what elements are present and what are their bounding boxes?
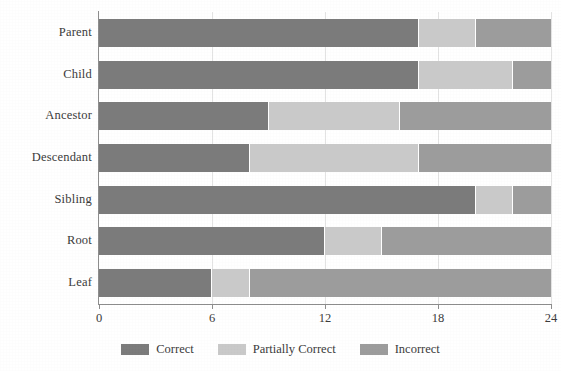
legend-label: Partially Correct <box>253 342 336 357</box>
bar-segment <box>250 144 420 172</box>
bar-root <box>99 227 551 255</box>
x-axis-tick <box>212 305 213 309</box>
y-axis-label-descendant: Descendant <box>0 150 92 165</box>
x-axis-tick-label: 24 <box>531 311 561 326</box>
chart-legend: CorrectPartially CorrectIncorrect <box>0 342 561 357</box>
bar-segment <box>99 61 419 89</box>
y-axis-label-root: Root <box>0 233 92 248</box>
legend-swatch-icon <box>360 344 388 355</box>
bar-ancestor <box>99 102 551 130</box>
bar-segment <box>99 227 325 255</box>
legend-item[interactable]: Incorrect <box>360 342 440 357</box>
y-axis-label-sibling: Sibling <box>0 192 92 207</box>
bar-segment <box>325 227 382 255</box>
bar-segment <box>419 19 476 47</box>
x-axis-tick <box>325 305 326 309</box>
bar-segment <box>513 61 551 89</box>
legend-label: Incorrect <box>395 342 440 357</box>
bar-parent <box>99 19 551 47</box>
bar-segment <box>250 269 551 297</box>
x-axis-tick <box>99 305 100 309</box>
bar-segment <box>513 186 551 214</box>
bar-segment <box>99 19 419 47</box>
gridline <box>551 12 552 304</box>
bar-leaf <box>99 269 551 297</box>
x-axis-tick-label: 18 <box>418 311 458 326</box>
x-axis-tick <box>551 305 552 309</box>
legend-label: Correct <box>156 342 193 357</box>
bar-segment <box>400 102 551 130</box>
bar-segment <box>99 102 269 130</box>
bar-segment <box>99 144 250 172</box>
y-axis-label-ancestor: Ancestor <box>0 108 92 123</box>
bar-child <box>99 61 551 89</box>
x-axis-tick-label: 0 <box>79 311 119 326</box>
legend-swatch-icon <box>218 344 246 355</box>
bar-sibling <box>99 186 551 214</box>
x-axis-tick <box>438 305 439 309</box>
bar-segment <box>419 144 551 172</box>
bar-segment <box>99 186 476 214</box>
legend-item[interactable]: Correct <box>121 342 193 357</box>
y-axis-label-leaf: Leaf <box>0 275 92 290</box>
legend-item[interactable]: Partially Correct <box>218 342 336 357</box>
bar-segment <box>476 186 514 214</box>
x-axis-tick-label: 12 <box>305 311 345 326</box>
bar-segment <box>419 61 513 89</box>
bar-segment <box>269 102 401 130</box>
x-axis-tick-label: 6 <box>192 311 232 326</box>
legend-swatch-icon <box>121 344 149 355</box>
stacked-bar-chart: 06121824 ParentChildAncestorDescendantSi… <box>0 0 561 371</box>
y-axis-label-child: Child <box>0 67 92 82</box>
bar-segment <box>476 19 551 47</box>
bar-segment <box>212 269 250 297</box>
bar-segment <box>382 227 552 255</box>
bar-descendant <box>99 144 551 172</box>
bar-segment <box>99 269 212 297</box>
y-axis-label-parent: Parent <box>0 25 92 40</box>
